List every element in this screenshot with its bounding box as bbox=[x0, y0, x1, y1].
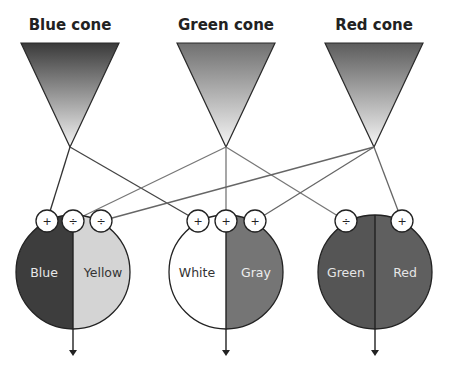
divide-icon: ÷ bbox=[341, 215, 350, 228]
blue-yellow-left-label: Blue bbox=[30, 265, 58, 280]
green-cone: Green cone bbox=[177, 16, 275, 147]
excitatory-marker: + bbox=[36, 210, 58, 232]
blue-cone: Blue cone bbox=[21, 16, 119, 147]
opponent-channels: BlueYellowWhiteGrayGreenRed bbox=[16, 215, 432, 356]
blue-cone-triangle bbox=[21, 43, 119, 147]
plus-icon: + bbox=[250, 215, 259, 228]
connection-line bbox=[70, 147, 198, 221]
white-gray-channel: WhiteGray bbox=[169, 215, 283, 356]
divide-icon: ÷ bbox=[96, 215, 105, 228]
plus-icon: + bbox=[221, 215, 230, 228]
inhibitory-marker: ÷ bbox=[335, 210, 357, 232]
excitatory-marker: + bbox=[187, 210, 209, 232]
arrow-down-icon bbox=[69, 350, 77, 356]
arrow-down-icon bbox=[222, 350, 230, 356]
white-gray-left-label: White bbox=[179, 265, 216, 280]
white-gray-right-label: Gray bbox=[241, 265, 271, 280]
connection-line bbox=[226, 147, 346, 221]
plus-icon: + bbox=[397, 215, 406, 228]
inhibitory-marker: ÷ bbox=[90, 210, 112, 232]
plus-icon: + bbox=[42, 215, 51, 228]
cones: Blue coneGreen coneRed cone bbox=[21, 16, 423, 147]
color-opponent-diagram: Blue coneGreen coneRed cone BlueYellowWh… bbox=[0, 0, 451, 370]
plus-icon: + bbox=[193, 215, 202, 228]
divide-icon: ÷ bbox=[68, 215, 77, 228]
green-red-left-label: Green bbox=[327, 265, 365, 280]
red-cone-title: Red cone bbox=[335, 16, 413, 34]
green-cone-triangle bbox=[177, 43, 275, 147]
excitatory-marker: + bbox=[391, 210, 413, 232]
red-cone-triangle bbox=[325, 43, 423, 147]
connection-line bbox=[374, 147, 402, 221]
green-red-channel: GreenRed bbox=[318, 215, 432, 356]
red-cone: Red cone bbox=[325, 16, 423, 147]
arrow-down-icon bbox=[371, 350, 379, 356]
blue-cone-title: Blue cone bbox=[29, 16, 112, 34]
connection-line bbox=[255, 147, 374, 221]
inhibitory-marker: ÷ bbox=[62, 210, 84, 232]
connection-line bbox=[73, 147, 226, 221]
connection-line bbox=[101, 147, 374, 221]
blue-yellow-right-label: Yellow bbox=[83, 265, 122, 280]
green-cone-title: Green cone bbox=[178, 16, 274, 34]
blue-yellow-channel: BlueYellow bbox=[16, 215, 130, 356]
green-red-right-label: Red bbox=[393, 265, 417, 280]
excitatory-marker: + bbox=[215, 210, 237, 232]
excitatory-marker: + bbox=[244, 210, 266, 232]
